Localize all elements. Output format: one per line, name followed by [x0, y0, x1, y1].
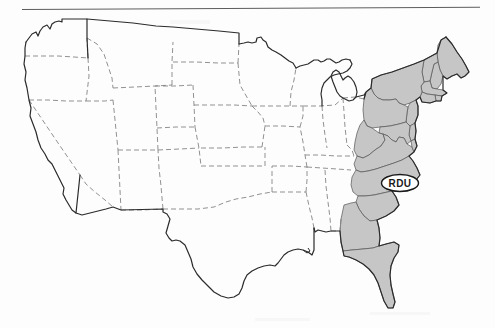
border-co-ne [157, 127, 195, 128]
border-nv-ut [113, 100, 118, 150]
border-sd-mn-ia [238, 63, 252, 106]
border-mo-il-ky [300, 127, 307, 167]
border-ks-mo [262, 126, 265, 147]
outline-coast-west [24, 42, 80, 213]
state-maine [437, 37, 469, 79]
border-or-id [86, 58, 89, 101]
border-wa-or [25, 56, 88, 58]
border-ky-tn [305, 155, 354, 156]
border-id-nv-ut [86, 100, 113, 101]
border-tn-ms-al [307, 167, 351, 170]
outline-minnesota-north [239, 37, 296, 68]
interior-state-borders [25, 38, 364, 231]
border-in-oh [343, 98, 347, 145]
border-mo-ar [272, 166, 307, 167]
page-canvas: RDU [0, 0, 495, 328]
border-ne-ks [201, 147, 262, 148]
border-nm-tx-co [158, 150, 163, 209]
border-mt-wy [113, 85, 172, 88]
border-ca-az [80, 175, 113, 207]
gulf-coast-detail [303, 248, 310, 253]
border-mn-wi [290, 68, 296, 106]
outline-canada-border-north [87, 19, 239, 44]
border-nd-sd [173, 62, 238, 63]
border-az-nm [118, 150, 121, 210]
us-map-svg: RDU [0, 0, 495, 328]
outline-upper-michigan [321, 60, 352, 106]
border-in-mi [335, 98, 343, 105]
border-nd-mn [238, 44, 239, 63]
border-nv-ca [29, 100, 80, 175]
border-wy-sd-ne [193, 85, 195, 127]
border-ok-tx [163, 192, 272, 209]
border-or-ca-nv [29, 100, 86, 101]
border-ms-al [325, 170, 331, 231]
outline-pacific-northwest [26, 19, 88, 58]
border-ks-ne-ok [195, 127, 201, 166]
border-ne-ia [252, 106, 265, 126]
outline-mexico-border [76, 207, 314, 298]
border-ut-wy-co [155, 86, 158, 150]
outline-lake-superior [296, 59, 350, 68]
border-la-ms [306, 192, 314, 228]
border-sd-ne [194, 105, 252, 106]
border-ar-ms [306, 167, 307, 192]
border-il-wi [303, 105, 335, 106]
border-il-in [322, 106, 327, 148]
border-mt-nd [172, 42, 173, 85]
border-ia-il [300, 106, 303, 127]
border-mo-ia [265, 126, 300, 127]
map-container: RDU [0, 0, 495, 328]
mississippi-delta [303, 248, 310, 253]
rdu-callout-label: RDU [389, 178, 412, 189]
border-oh-ky [347, 145, 354, 156]
rdu-airport-callout[interactable]: RDU [382, 175, 419, 192]
border-id-mt [87, 38, 113, 88]
border-al-ga [331, 219, 341, 231]
border-co-ok-ks [158, 148, 199, 150]
border-wy-co [155, 85, 193, 86]
